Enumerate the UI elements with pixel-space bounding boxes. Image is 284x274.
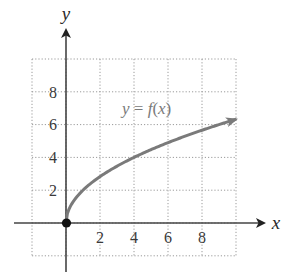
y-axis-label: y <box>60 3 71 24</box>
x-tick-label: 4 <box>130 229 138 246</box>
function-graph: y x 2 4 6 8 8 6 4 2 y = f(x) <box>0 0 284 274</box>
origin-point <box>62 218 71 227</box>
y-tick-label: 6 <box>49 116 57 133</box>
x-tick-label: 6 <box>164 229 172 246</box>
function-curve <box>66 120 235 223</box>
y-tick-label: 8 <box>49 84 57 101</box>
x-tick-label: 8 <box>198 229 206 246</box>
curve-label: y = f(x) <box>120 99 171 118</box>
y-tick-label: 2 <box>49 182 57 199</box>
y-tick-label: 4 <box>49 149 57 166</box>
x-tick-label: 2 <box>96 229 104 246</box>
x-axis-label: x <box>271 212 281 233</box>
